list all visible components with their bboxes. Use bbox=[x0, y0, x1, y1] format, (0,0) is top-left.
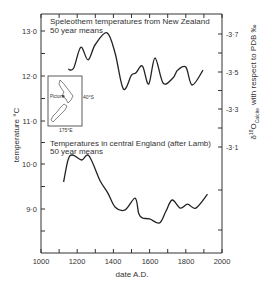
left-axis-tick-labels: 13·0 12·0 11·0 10·0 9·0 bbox=[22, 27, 37, 214]
right-axis-tick-labels: -3·7 -3·5 -3·3 -3·1 bbox=[226, 31, 239, 151]
left-axis-label: temperature °C bbox=[12, 108, 21, 163]
x-tick-2000: 2000 bbox=[214, 257, 231, 266]
left-tick-11: 11·0 bbox=[23, 117, 37, 126]
x-tick-1800: 1800 bbox=[178, 257, 195, 266]
lower-subtitle: 50 year means bbox=[50, 147, 103, 156]
left-tick-12: 12·0 bbox=[22, 72, 37, 81]
england-temperature-line bbox=[64, 155, 208, 223]
upper-subtitle: 50 year means bbox=[50, 26, 103, 35]
map-lat-label: 40°S bbox=[83, 94, 95, 100]
upper-title: Speleothem temperatures from New Zealand bbox=[50, 17, 210, 26]
map-lon-label: 175°E bbox=[59, 127, 73, 133]
inset-map: Pictone 40°S 175°E bbox=[48, 76, 95, 133]
left-tick-10: 10·0 bbox=[22, 160, 37, 169]
left-axis-ticks bbox=[41, 31, 45, 231]
x-axis-tick-labels: 1000 1200 1400 1600 1800 2000 bbox=[33, 257, 231, 266]
x-tick-1200: 1200 bbox=[69, 257, 86, 266]
x-tick-1000: 1000 bbox=[33, 257, 50, 266]
nz-temperature-line bbox=[68, 33, 203, 90]
right-axis-label: δ18OCalcitewith respect to PDB ‰ bbox=[248, 24, 260, 139]
right-axis-ticks bbox=[218, 34, 222, 230]
right-tick-3-1: -3·1 bbox=[226, 144, 239, 151]
left-tick-13: 13·0 bbox=[22, 27, 37, 36]
svg-text:δ18OCalcitewith respect to PDB: δ18OCalcitewith respect to PDB ‰ bbox=[248, 24, 260, 139]
chart-figure: 1000 1200 1400 1600 1800 2000 date A.D. … bbox=[0, 0, 266, 296]
x-axis-label: date A.D. bbox=[116, 270, 149, 279]
right-tick-3-7: -3·7 bbox=[226, 31, 239, 38]
left-tick-9: 9·0 bbox=[26, 205, 37, 214]
plot-frame bbox=[41, 14, 222, 253]
x-axis-ticks bbox=[41, 14, 222, 253]
right-tick-3-3: -3·3 bbox=[226, 106, 239, 113]
right-tick-3-5: -3·5 bbox=[226, 69, 239, 76]
x-tick-1400: 1400 bbox=[105, 257, 122, 266]
map-site-label: Pictone bbox=[50, 94, 66, 99]
x-tick-1600: 1600 bbox=[142, 257, 159, 266]
